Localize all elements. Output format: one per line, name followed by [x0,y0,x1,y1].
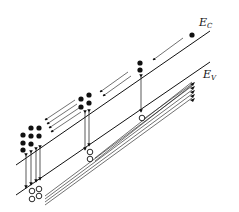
valence-band-line [16,62,210,195]
hole-circle [29,196,35,202]
hole-circle [139,115,145,121]
hole-circle [87,149,93,155]
electron-dot [86,100,91,105]
electron-dot [137,60,142,65]
hole-circle [29,188,35,194]
electron-dot [20,147,25,152]
electron-dot [78,96,83,101]
hole-circle [36,186,42,192]
electron-dot [20,140,25,145]
holes [29,115,145,202]
electron-dot [78,104,83,109]
hole-circle [36,193,42,199]
electron-dot [28,133,33,138]
electron-dot [189,32,194,37]
electron-dot [86,92,91,97]
electron-dot [36,133,41,138]
electron-dot [36,125,41,130]
electron-dot [28,125,33,130]
hole-circle [87,156,93,162]
electron-relaxation-arrows [45,38,183,132]
valence-band-label: EV [202,68,217,82]
electron-dot [28,141,33,146]
recombination-arrows [26,77,141,188]
band-diagram: EC EV [0,0,239,212]
conduction-band-label: EC [198,16,213,30]
electron-dot [137,67,142,72]
hole-relaxation-lines [45,82,192,205]
electron-dot [20,132,25,137]
